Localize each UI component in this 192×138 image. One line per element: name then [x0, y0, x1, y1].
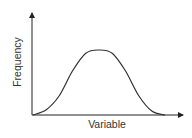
y-axis-label: Frequency: [11, 36, 23, 86]
x-axis-label: Variable: [88, 118, 126, 130]
chart: Variable Frequency: [0, 0, 192, 138]
distribution-curve: [33, 50, 165, 115]
